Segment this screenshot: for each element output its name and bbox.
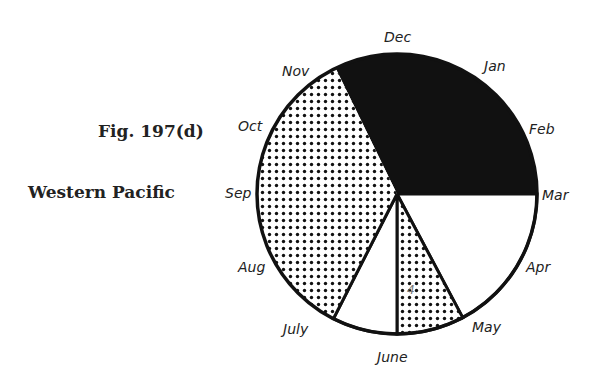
label-dec: Dec: [384, 29, 411, 45]
label-mar: Mar: [542, 187, 570, 203]
label-sep: Sep: [225, 185, 252, 201]
label-inner-4: 4: [407, 283, 415, 297]
label-nov: Nov: [282, 63, 310, 79]
label-jan: Jan: [481, 58, 506, 74]
label-july: July: [280, 321, 309, 337]
label-apr: Apr: [525, 259, 551, 275]
label-june: June: [374, 349, 408, 365]
pie-chart: Dec Jan Feb Mar Apr May June July Aug Se…: [0, 0, 597, 385]
label-may: May: [472, 319, 502, 335]
label-oct: Oct: [238, 118, 263, 134]
label-feb: Feb: [529, 121, 555, 137]
label-aug: Aug: [237, 259, 265, 275]
